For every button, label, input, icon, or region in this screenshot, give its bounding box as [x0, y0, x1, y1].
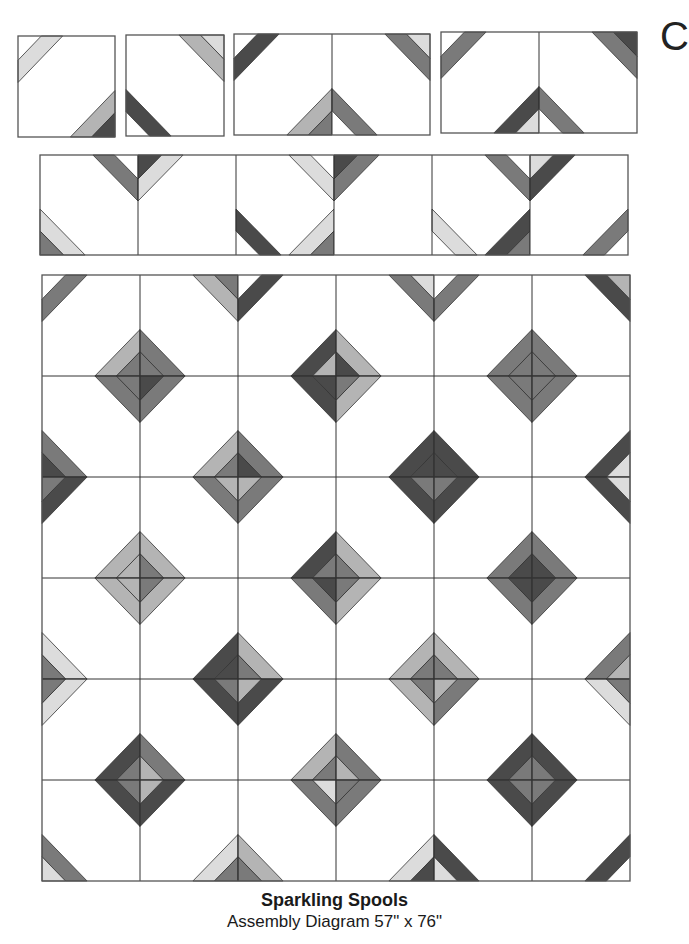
quilt-block	[42, 376, 140, 477]
quilt-block	[434, 477, 532, 578]
quilt-block	[441, 32, 539, 133]
quilt-block	[40, 155, 138, 255]
quilt-block	[530, 155, 628, 255]
quilt-block	[140, 578, 238, 679]
diagram-subtitle: Assembly Diagram 57" x 76"	[0, 912, 669, 932]
step-pair-a	[234, 34, 430, 135]
step-single-block-a	[18, 36, 115, 137]
quilt-block	[238, 275, 336, 376]
row-assembly	[40, 155, 628, 255]
quilt-block	[42, 578, 140, 679]
quilt-block	[18, 36, 115, 137]
quilt-block	[140, 275, 238, 376]
step-pair-b	[441, 32, 637, 133]
quilt-block	[138, 155, 236, 255]
quilt-block	[336, 477, 434, 578]
quilt-block	[336, 578, 434, 679]
quilt-block	[532, 578, 630, 679]
quilt-block	[434, 275, 532, 376]
quilt-block	[42, 275, 140, 376]
quilt-block	[539, 32, 637, 133]
quilt-block	[532, 780, 630, 881]
quilt-block	[532, 376, 630, 477]
quilt-block	[238, 376, 336, 477]
quilt-block	[532, 477, 630, 578]
quilt-block	[42, 679, 140, 780]
quilt-block	[434, 578, 532, 679]
cropped-label-glyph: C	[660, 14, 689, 59]
quilt-block	[334, 155, 432, 255]
quilt-block	[234, 34, 332, 135]
quilt-block	[238, 477, 336, 578]
quilt-block	[332, 34, 430, 135]
quilt-block	[532, 679, 630, 780]
quilt-block	[434, 679, 532, 780]
quilt-block	[126, 35, 224, 136]
quilt-block	[140, 679, 238, 780]
quilt-block	[336, 376, 434, 477]
quilt-grid	[42, 275, 630, 881]
quilt-block	[336, 679, 434, 780]
quilt-block	[432, 155, 530, 255]
quilt-block	[140, 780, 238, 881]
quilt-block	[238, 578, 336, 679]
quilt-block	[434, 376, 532, 477]
quilt-block	[42, 477, 140, 578]
quilt-block	[434, 780, 532, 881]
diagram-title: Sparkling Spools	[0, 890, 669, 911]
step-single-block-b	[126, 35, 224, 136]
quilt-block	[532, 275, 630, 376]
quilt-block	[336, 275, 434, 376]
quilt-block	[238, 679, 336, 780]
quilt-block	[238, 780, 336, 881]
quilt-block	[140, 376, 238, 477]
quilt-block	[140, 477, 238, 578]
quilt-block	[42, 780, 140, 881]
quilt-block	[236, 155, 334, 255]
quilt-block	[336, 780, 434, 881]
